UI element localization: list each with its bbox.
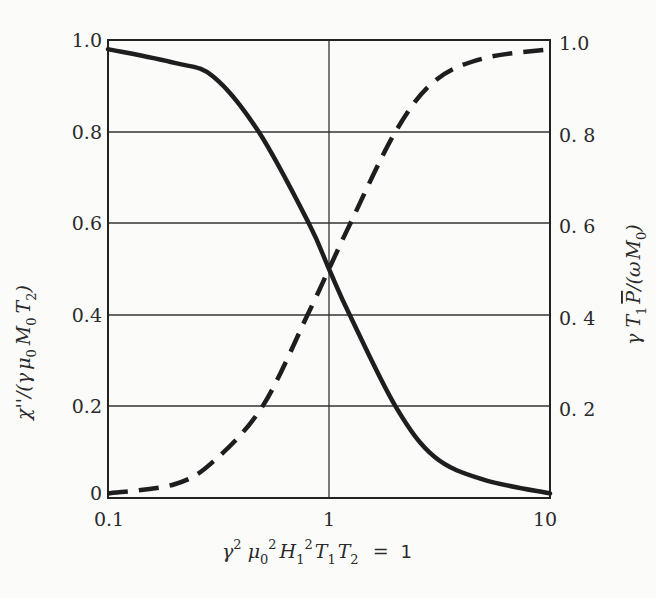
y-left-tick: 0.6 bbox=[72, 212, 102, 234]
y-left-tick: 0 bbox=[90, 482, 102, 504]
y-right-tick: 0. 2 bbox=[559, 398, 595, 420]
y-right-tick: 0. 8 bbox=[559, 124, 595, 146]
y-right-axis-label: γ T1P/(ωM0) bbox=[622, 224, 649, 345]
y-right-tick: 0. 6 bbox=[559, 215, 595, 237]
x-tick: 1 bbox=[323, 508, 335, 530]
x-axis-label: γ2μ02H12T1T2=1 bbox=[222, 537, 412, 567]
y-left-tick: 0.8 bbox=[72, 121, 102, 143]
y-right-tick: 0. 4 bbox=[559, 307, 595, 329]
y-left-tick: 0.4 bbox=[72, 304, 102, 326]
chart: 1.0 0.8 0.6 0.4 0.2 0 1.0 0. 8 0. 6 0. 4… bbox=[0, 0, 656, 598]
x-tick: 10 bbox=[533, 508, 557, 530]
x-tick: 0.1 bbox=[94, 508, 124, 530]
y-left-axis-label: χ''/(γμ0M0T2) bbox=[12, 285, 39, 422]
y-left-ticks: 1.0 0.8 0.6 0.4 0.2 0 bbox=[72, 29, 102, 504]
y-right-tick: 1.0 bbox=[559, 32, 589, 54]
y-left-tick: 0.2 bbox=[72, 395, 102, 417]
x-ticks: 0.1 1 10 bbox=[94, 508, 557, 530]
y-right-ticks: 1.0 0. 8 0. 6 0. 4 0. 2 bbox=[559, 32, 595, 420]
y-left-tick: 1.0 bbox=[72, 29, 102, 51]
